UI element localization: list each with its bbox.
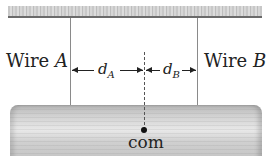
wire-b (197, 18, 198, 106)
ceiling-edge (8, 16, 262, 18)
wire-b-label: Wire B (204, 50, 266, 71)
arrow-da-right (120, 70, 143, 71)
wire-a (70, 18, 71, 106)
arrow-db-right (182, 70, 196, 71)
distance-a-label: dA (98, 60, 115, 80)
ceiling (8, 6, 262, 16)
wire-a-label: Wire A (6, 50, 68, 71)
distance-b-label: dB (163, 60, 180, 80)
com-dashed-line (144, 52, 145, 130)
com-label: com (128, 132, 164, 152)
arrow-da-left (72, 70, 94, 71)
arrow-db-left (146, 70, 160, 71)
diagram-canvas: Wire A Wire B dA dB com (0, 0, 266, 156)
